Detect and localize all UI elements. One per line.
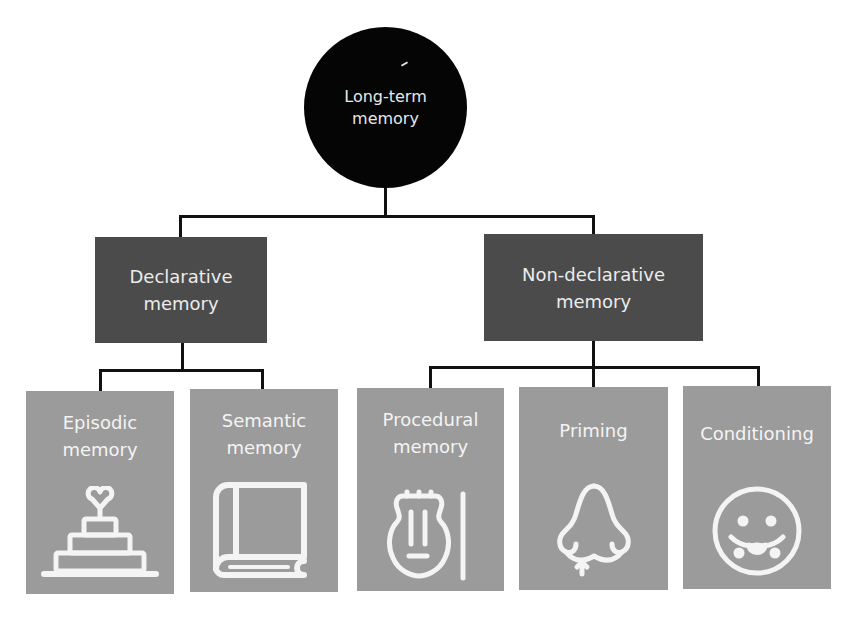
node-priming: Priming: [519, 387, 668, 590]
book-icon: [210, 479, 320, 579]
episodic-label-line2: memory: [26, 436, 174, 463]
violin-icon: [385, 488, 485, 583]
root-node-long-term-memory: Long-term memory: [304, 27, 467, 188]
declarative-label-line2: memory: [143, 290, 218, 317]
declarative-label-line1: Declarative: [129, 263, 232, 290]
node-conditioning: Conditioning: [683, 386, 831, 589]
nose-icon: [554, 482, 634, 577]
semantic-label-line1: Semantic: [190, 407, 338, 434]
connector-declarative-horizontal: [99, 369, 264, 372]
semantic-label-line2: memory: [190, 434, 338, 461]
wedding-cake-icon: [40, 486, 160, 581]
root-label-line1: Long-term: [344, 86, 427, 108]
connector-root-horizontal: [179, 215, 595, 218]
connector-root-down: [384, 186, 387, 217]
root-label-line2: memory: [352, 108, 419, 130]
procedural-label-line2: memory: [357, 433, 504, 460]
episodic-label-line1: Episodic: [26, 409, 174, 436]
procedural-label-line1: Procedural: [357, 406, 504, 433]
connector-non-declarative-horizontal: [429, 366, 760, 369]
connector-declarative-down: [181, 342, 184, 371]
node-episodic-memory: Episodic memory: [26, 391, 174, 594]
node-non-declarative-memory: Non-declarative memory: [484, 234, 703, 341]
tick-mark: [401, 61, 408, 66]
conditioning-label: Conditioning: [683, 420, 831, 447]
node-declarative-memory: Declarative memory: [95, 237, 267, 343]
connector-non-declarative-down: [592, 340, 595, 390]
drooling-face-icon: [709, 483, 805, 579]
non-declarative-label-line2: memory: [556, 288, 631, 315]
non-declarative-label-line1: Non-declarative: [522, 261, 665, 288]
node-procedural-memory: Procedural memory: [357, 388, 504, 591]
priming-label: Priming: [519, 417, 668, 444]
node-semantic-memory: Semantic memory: [190, 389, 338, 592]
